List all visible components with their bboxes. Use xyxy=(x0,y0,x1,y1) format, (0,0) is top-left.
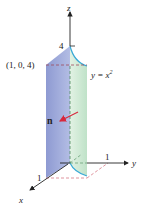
x-axis-label: x xyxy=(18,195,23,205)
guide-line-diag xyxy=(87,163,108,178)
x-tick-label: 1 xyxy=(37,173,42,183)
z-axis-label: z xyxy=(66,3,71,13)
curve-label: y = x2 xyxy=(90,69,113,80)
blue-surface-face xyxy=(46,46,70,178)
normal-label: n xyxy=(47,115,53,126)
point-label: (1, 0, 4) xyxy=(6,60,35,70)
surface-diagram: z 4 (1, 0, 4) y = x2 n 1 y 1 x xyxy=(0,0,148,211)
y-tick-label: 1 xyxy=(105,152,110,162)
y-axis-label: y xyxy=(131,158,136,168)
z-tick-label: 4 xyxy=(59,41,64,51)
